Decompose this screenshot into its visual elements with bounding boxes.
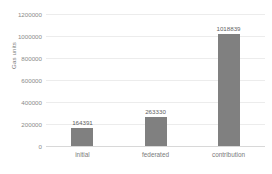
y-tick-label: 800000 [21,55,42,62]
x-tick-label-contribution: contribution [212,151,245,158]
y-tick-label: 600000 [21,77,42,84]
gridline [46,146,265,147]
bar-federated[interactable]: 263330 [145,117,167,146]
y-tick-label: 200000 [21,121,42,128]
bar-contribution[interactable]: 1018839 [218,34,240,146]
bars-layer: 1643912633301018839 [46,14,265,146]
bar-rect[interactable] [145,117,167,146]
bar-value-label: 1018839 [216,25,240,32]
bar-initial[interactable]: 164391 [71,128,93,146]
bar-value-label: 164391 [72,119,93,126]
x-tick-label-federated: federated [142,151,169,158]
y-tick-label: 400000 [21,99,42,106]
plot-area: 020000040000060000080000010000001200000 … [46,14,265,146]
bar-rect[interactable] [218,34,240,146]
y-tick-label: 0 [39,143,42,150]
x-tick-label-initial: initial [75,151,90,158]
y-tick-label: 1000000 [18,33,42,40]
bar-rect[interactable] [71,128,93,146]
bar-chart: Gas units 020000040000060000080000010000… [0,0,272,174]
y-axis-title: Gas units [10,26,17,86]
bar-value-label: 263330 [145,108,166,115]
y-tick-label: 1200000 [18,11,42,18]
